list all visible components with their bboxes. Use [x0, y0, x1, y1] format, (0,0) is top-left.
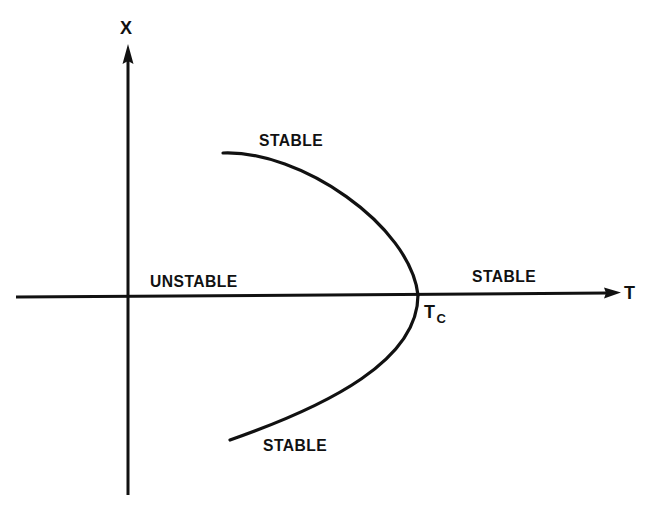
critical-point-main: T: [424, 302, 436, 322]
lower-branch-label: STABLE: [263, 436, 327, 456]
t-axis-arrow-icon: [604, 288, 621, 299]
unstable-axis-label: UNSTABLE: [150, 272, 238, 292]
upper-branch-label: STABLE: [259, 131, 323, 151]
bifurcation-diagram: [0, 0, 649, 508]
upper-stable-branch: [223, 153, 418, 295]
lower-stable-branch: [230, 295, 418, 440]
t-axis-label: T: [624, 283, 636, 304]
critical-point-subscript: C: [437, 311, 447, 326]
stable-axis-label: STABLE: [472, 267, 536, 287]
t-axis: [16, 293, 608, 297]
x-axis-label: X: [120, 18, 133, 39]
x-axis-arrow-icon: [123, 44, 134, 64]
critical-point-label: TC: [424, 302, 446, 323]
